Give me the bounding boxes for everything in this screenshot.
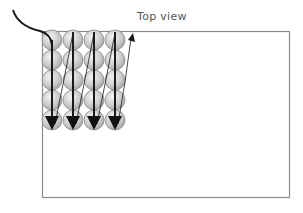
return-arrowhead-icon <box>128 33 135 42</box>
top-view-diagram <box>0 0 303 213</box>
downward-paths <box>52 32 115 118</box>
